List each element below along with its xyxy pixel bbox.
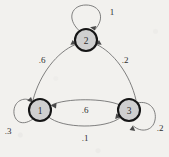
edge-1-to-2 <box>33 40 76 100</box>
diagram-canvas: 2 1 3 1 .6 .2 .6 .1 .3 .2 <box>0 0 169 157</box>
node-3-label: 3 <box>127 106 132 116</box>
node-1-label: 1 <box>38 106 43 116</box>
edge-path-1-3 <box>48 117 121 127</box>
edge-path-3-2 <box>97 45 137 101</box>
edge-label-3-3: .2 <box>157 123 164 133</box>
node-2[interactable]: 2 <box>75 29 97 51</box>
edge-3-to-2 <box>96 40 136 100</box>
edge-2-to-2 <box>72 5 101 31</box>
edge-1-to-3 <box>48 114 121 126</box>
edge-label-3-1: .6 <box>82 105 89 115</box>
diagram-svg: 2 1 3 1 .6 .2 .6 .1 .3 .2 <box>0 0 169 157</box>
edge-label-1-1: .3 <box>5 126 12 136</box>
node-3[interactable]: 3 <box>118 99 140 121</box>
edge-label-2-2: 1 <box>110 7 115 17</box>
node-2-label: 2 <box>84 36 89 46</box>
edge-path-2-2 <box>72 5 101 31</box>
edge-label-1-2: .6 <box>39 55 46 65</box>
edge-label-3-2: .2 <box>122 55 129 65</box>
node-1[interactable]: 1 <box>29 99 51 121</box>
edge-path-1-2 <box>33 45 76 101</box>
edge-label-1-3: .1 <box>82 133 89 143</box>
